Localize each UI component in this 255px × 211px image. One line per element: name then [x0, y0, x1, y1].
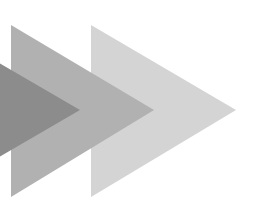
triangles-graphic — [0, 0, 255, 211]
